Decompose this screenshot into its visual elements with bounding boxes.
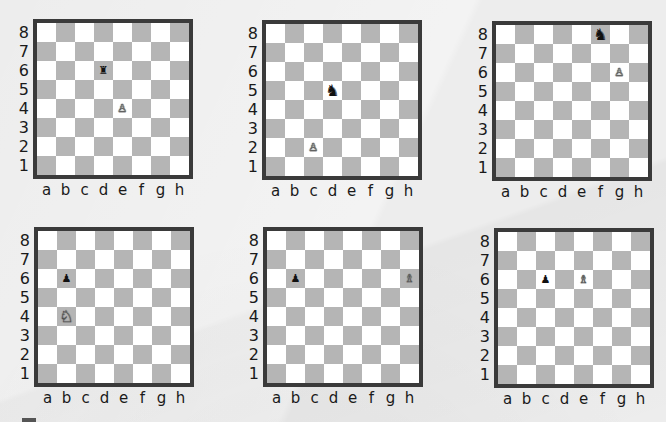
square-e6[interactable] [572, 63, 591, 82]
square-c8[interactable] [536, 232, 555, 251]
square-a3[interactable] [267, 326, 286, 345]
square-b7[interactable] [57, 250, 76, 269]
square-g1[interactable] [151, 156, 170, 175]
square-a5[interactable] [267, 288, 286, 307]
square-e4[interactable] [574, 308, 593, 327]
square-c3[interactable] [304, 119, 323, 138]
square-f1[interactable] [362, 364, 381, 383]
square-h4[interactable] [400, 307, 419, 326]
square-g4[interactable] [380, 100, 399, 119]
square-e1[interactable] [113, 156, 132, 175]
square-b2[interactable] [515, 139, 534, 158]
square-f3[interactable] [362, 326, 381, 345]
square-a4[interactable] [496, 101, 515, 120]
square-h8[interactable] [170, 23, 189, 42]
square-h5[interactable] [171, 288, 190, 307]
square-f8[interactable] [361, 24, 380, 43]
square-f7[interactable] [593, 251, 612, 270]
square-g8[interactable] [381, 231, 400, 250]
square-c4[interactable] [76, 307, 95, 326]
white-bishop-icon[interactable]: ♗ [579, 270, 589, 289]
square-h1[interactable] [399, 157, 418, 176]
square-c3[interactable] [536, 327, 555, 346]
square-g1[interactable] [380, 157, 399, 176]
square-h6[interactable] [631, 270, 650, 289]
square-h3[interactable] [171, 326, 190, 345]
square-d8[interactable] [324, 231, 343, 250]
square-f5[interactable] [593, 289, 612, 308]
square-h8[interactable] [629, 25, 648, 44]
square-h4[interactable] [170, 99, 189, 118]
square-d2[interactable] [94, 137, 113, 156]
square-c6[interactable] [76, 269, 95, 288]
square-a5[interactable] [498, 289, 517, 308]
square-b5[interactable] [56, 80, 75, 99]
square-c4[interactable] [534, 101, 553, 120]
square-g5[interactable] [152, 288, 171, 307]
square-b1[interactable] [285, 157, 304, 176]
square-e6[interactable] [114, 269, 133, 288]
square-a6[interactable] [38, 269, 57, 288]
square-c7[interactable] [534, 44, 553, 63]
square-a7[interactable] [267, 250, 286, 269]
square-a1[interactable] [498, 365, 517, 384]
square-e4[interactable] [572, 101, 591, 120]
square-g4[interactable] [152, 307, 171, 326]
square-c1[interactable] [536, 365, 555, 384]
square-c5[interactable] [305, 288, 324, 307]
square-a1[interactable] [38, 364, 57, 383]
square-e5[interactable] [113, 80, 132, 99]
square-d5[interactable] [555, 289, 574, 308]
square-g6[interactable] [380, 62, 399, 81]
square-e5[interactable] [342, 81, 361, 100]
square-c4[interactable] [536, 308, 555, 327]
square-d1[interactable] [324, 364, 343, 383]
square-b8[interactable] [517, 232, 536, 251]
square-e3[interactable] [343, 326, 362, 345]
square-c2[interactable]: ♙ [304, 138, 323, 157]
square-g1[interactable] [381, 364, 400, 383]
square-h3[interactable] [170, 118, 189, 137]
square-d4[interactable] [95, 307, 114, 326]
square-d5[interactable]: ♞ [323, 81, 342, 100]
square-e7[interactable] [574, 251, 593, 270]
square-g2[interactable] [151, 137, 170, 156]
square-a3[interactable] [38, 326, 57, 345]
square-g7[interactable] [152, 250, 171, 269]
square-b5[interactable] [286, 288, 305, 307]
square-b4[interactable]: ♘ [57, 307, 76, 326]
white-pawn-icon[interactable]: ♙ [615, 63, 625, 82]
square-b8[interactable] [56, 23, 75, 42]
square-f6[interactable] [591, 63, 610, 82]
square-b4[interactable] [286, 307, 305, 326]
square-c1[interactable] [534, 158, 553, 177]
square-e4[interactable] [342, 100, 361, 119]
square-h2[interactable] [170, 137, 189, 156]
square-e7[interactable] [343, 250, 362, 269]
square-f5[interactable] [361, 81, 380, 100]
square-e1[interactable] [342, 157, 361, 176]
square-f5[interactable] [133, 288, 152, 307]
square-b8[interactable] [285, 24, 304, 43]
square-d5[interactable] [94, 80, 113, 99]
square-e8[interactable] [574, 232, 593, 251]
square-h3[interactable] [399, 119, 418, 138]
square-g2[interactable] [380, 138, 399, 157]
square-e7[interactable] [342, 43, 361, 62]
square-b7[interactable] [286, 250, 305, 269]
square-e2[interactable] [572, 139, 591, 158]
square-f7[interactable] [132, 42, 151, 61]
square-b3[interactable] [286, 326, 305, 345]
square-g6[interactable]: ♙ [610, 63, 629, 82]
square-d1[interactable] [323, 157, 342, 176]
square-h4[interactable] [399, 100, 418, 119]
square-d3[interactable] [324, 326, 343, 345]
square-g6[interactable] [612, 270, 631, 289]
square-e5[interactable] [114, 288, 133, 307]
square-a4[interactable] [266, 100, 285, 119]
square-e6[interactable]: ♗ [574, 270, 593, 289]
square-a8[interactable] [266, 24, 285, 43]
square-c3[interactable] [305, 326, 324, 345]
square-b5[interactable] [57, 288, 76, 307]
square-a5[interactable] [496, 82, 515, 101]
